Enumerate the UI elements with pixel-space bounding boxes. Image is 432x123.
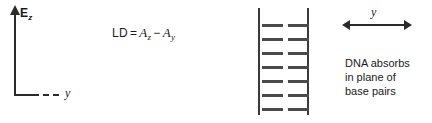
base-pair-rung (262, 94, 283, 97)
equation-term2-symbol: A (163, 25, 171, 40)
base-pair-rung (262, 80, 283, 83)
base-pair-rung (288, 80, 309, 83)
base-pair-rung (288, 52, 309, 55)
dna-backbone-left (258, 8, 260, 115)
absorption-caption: DNA absorbs in plane of base pairs (345, 56, 410, 98)
equation-term1-symbol: A (139, 25, 147, 40)
arrow-label-y: y (371, 5, 376, 20)
y-axis-solid-segment (14, 94, 33, 96)
base-pair-rung (288, 108, 309, 111)
equation-term2-subscript: y (171, 32, 175, 42)
z-axis-label: Ez (20, 6, 32, 22)
arrow-head-right-icon (404, 20, 412, 30)
polarization-arrow-line (349, 24, 406, 26)
y-axis-dashed-segment (33, 94, 63, 96)
base-pair-rung (288, 38, 309, 41)
base-pair-rung (262, 108, 283, 111)
equation-lhs: LD (112, 26, 128, 40)
base-pair-rung (262, 38, 283, 41)
caption-line-2: in plane of (345, 70, 410, 84)
y-axis-label: y (65, 86, 70, 101)
caption-line-1: DNA absorbs (345, 56, 410, 70)
base-pair-rung (288, 66, 309, 69)
base-pair-rung (262, 52, 283, 55)
z-axis-label-subscript: z (28, 13, 32, 22)
z-axis-label-symbol: E (20, 6, 28, 20)
equation-equals: = (128, 26, 139, 40)
linear-dichroism-diagram: Ez y LD=Az−Ay y DNA absorbs in plane of … (0, 0, 432, 123)
base-pair-rung (288, 24, 309, 27)
base-pair-rung (262, 24, 283, 27)
z-axis-line (14, 14, 16, 96)
base-pair-rung (288, 94, 309, 97)
linear-dichroism-equation: LD=Az−Ay (112, 25, 175, 42)
caption-line-3: base pairs (345, 84, 410, 98)
base-pair-rung (262, 66, 283, 69)
equation-operator: − (151, 26, 162, 40)
